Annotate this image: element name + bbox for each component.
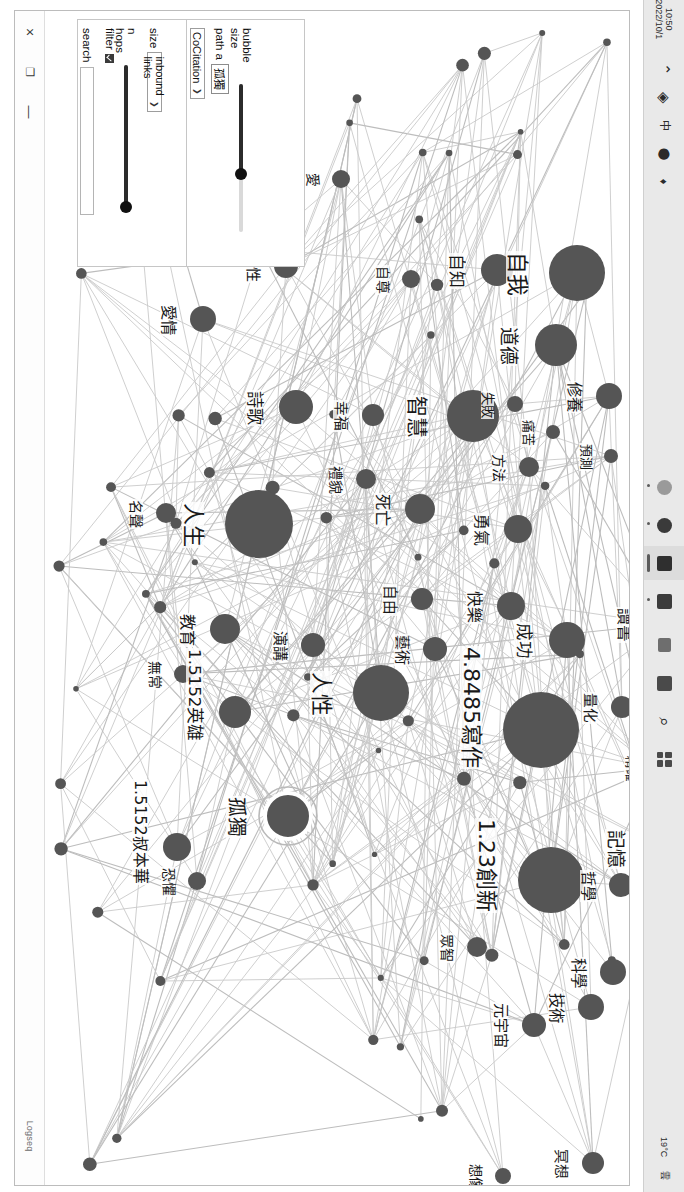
graph-node-minor[interactable] (321, 512, 332, 523)
nhops-slider[interactable] (120, 65, 132, 205)
graph-node[interactable] (356, 469, 376, 489)
graph-node-minor[interactable] (420, 956, 429, 965)
graph-node-minor[interactable] (55, 778, 66, 789)
close-icon[interactable]: × (14, 17, 47, 47)
graph-node-minor[interactable] (603, 38, 611, 46)
graph-node-minor[interactable] (73, 686, 79, 692)
graph-node-minor[interactable] (431, 279, 443, 291)
graph-node[interactable] (503, 692, 579, 768)
graph-node-minor[interactable] (446, 150, 453, 157)
graph-node-minor[interactable] (489, 558, 499, 568)
windows-taskbar[interactable]: 10:50 2022/10/1 ⌃ ◈ 中 ⬤ ♦ (643, 0, 684, 1192)
taskbar-file-explorer[interactable] (644, 666, 684, 700)
search-icon[interactable]: ⌕ (644, 704, 684, 738)
graph-node[interactable] (611, 696, 629, 718)
graph-node-minor[interactable] (541, 482, 549, 490)
graph-node-minor[interactable] (100, 538, 108, 546)
graph-node[interactable] (411, 588, 433, 610)
graph-node[interactable] (522, 1013, 546, 1037)
graph-node[interactable] (546, 425, 560, 439)
graph-node-minor[interactable] (208, 412, 221, 425)
graph-node-minor[interactable] (142, 590, 150, 598)
path-row[interactable]: path a 孤獨 (211, 28, 229, 94)
graph-node[interactable] (156, 503, 176, 523)
graph-node-minor[interactable] (415, 215, 423, 223)
graph-node-minor[interactable] (287, 709, 299, 721)
graph-node-minor[interactable] (83, 1157, 97, 1171)
graph-node-minor[interactable] (54, 842, 67, 855)
start-button[interactable] (644, 742, 684, 776)
graph-node-minor[interactable] (368, 1035, 378, 1045)
bubble-size-slider[interactable] (235, 84, 247, 215)
graph-node-minor[interactable] (154, 601, 166, 613)
graph-node[interactable] (188, 872, 206, 890)
graph-node-minor[interactable] (106, 482, 116, 492)
graph-node-minor[interactable] (513, 776, 526, 789)
graph-node-minor[interactable] (172, 409, 184, 421)
graph-node-minor[interactable] (478, 47, 491, 60)
mode-select[interactable]: CoCitation ❯ (190, 28, 205, 99)
graph-node[interactable] (402, 270, 420, 288)
size-row[interactable]: size inbound links ❯ (147, 28, 162, 112)
graph-node-minor[interactable] (53, 560, 64, 571)
graph-node[interactable] (549, 245, 605, 301)
size-select[interactable]: inbound links ❯ (147, 52, 162, 111)
graph-node-minor[interactable] (485, 949, 498, 962)
graph-node-minor[interactable] (518, 129, 524, 135)
graph-controls-panel-secondary[interactable]: CoCitation ❯ path a 孤獨 bubble size (187, 19, 305, 267)
graph-node[interactable] (535, 324, 577, 366)
graph-node-minor[interactable] (539, 30, 545, 36)
graph-node-minor[interactable] (436, 1105, 448, 1117)
nhops-knob[interactable] (120, 201, 132, 213)
taskbar-clock[interactable]: 10:50 2022/10/1 (644, 2, 684, 36)
graph-node[interactable] (353, 665, 409, 721)
graph-node-minor[interactable] (329, 860, 336, 867)
graph-node-minor[interactable] (419, 149, 427, 157)
graph-node[interactable] (210, 614, 240, 644)
taskbar-app-logseq[interactable] (644, 546, 684, 580)
graph-node[interactable] (578, 994, 604, 1020)
bubble-knob[interactable] (235, 168, 247, 180)
taskbar-app-red[interactable] (644, 584, 684, 618)
graph-node-minor[interactable] (418, 1116, 424, 1122)
graph-node[interactable] (405, 494, 435, 524)
graph-node-minor[interactable] (92, 907, 103, 918)
graph-node[interactable] (219, 696, 251, 728)
graph-node-minor[interactable] (457, 772, 471, 786)
tray-expand-icon[interactable]: ♦ (644, 164, 684, 198)
graph-node-minor[interactable] (204, 467, 215, 478)
graph-node[interactable] (497, 592, 525, 620)
graph-node-minor[interactable] (378, 975, 384, 981)
graph-node-minor[interactable] (155, 976, 165, 986)
graph-node[interactable] (549, 622, 585, 658)
graph-node[interactable] (600, 959, 626, 985)
graph-node[interactable] (279, 390, 313, 424)
graph-node-minor[interactable] (346, 120, 353, 127)
search-row[interactable]: search (80, 28, 94, 215)
graph-node[interactable] (519, 457, 539, 477)
graph-node[interactable] (163, 833, 191, 861)
graph-node-minor[interactable] (415, 554, 422, 561)
graph-node-minor[interactable] (112, 1134, 121, 1143)
bubble-size-row[interactable]: bubble size (229, 28, 253, 215)
graph-node[interactable] (423, 637, 447, 661)
graph-node-minor[interactable] (403, 715, 414, 726)
graph-node[interactable] (301, 633, 325, 657)
graph-node-minor[interactable] (459, 526, 469, 536)
maximize-icon[interactable]: ❐ (14, 57, 47, 87)
graph-node[interactable] (582, 1152, 604, 1174)
graph-node-minor[interactable] (513, 150, 522, 159)
search-input[interactable] (80, 67, 94, 215)
taskbar-app-grey[interactable] (644, 470, 684, 504)
graph-node[interactable] (518, 847, 584, 913)
minimize-icon[interactable]: — (14, 97, 47, 127)
mode-row[interactable]: CoCitation ❯ (190, 28, 205, 99)
graph-node-minor[interactable] (376, 748, 382, 754)
graph-node-minor[interactable] (353, 94, 362, 103)
graph-node[interactable] (604, 449, 618, 463)
graph-node[interactable] (332, 170, 350, 188)
graph-node[interactable] (190, 306, 216, 332)
graph-node[interactable] (609, 873, 629, 897)
graph-node-minor[interactable] (192, 559, 198, 565)
graph-node-minor[interactable] (559, 939, 570, 950)
